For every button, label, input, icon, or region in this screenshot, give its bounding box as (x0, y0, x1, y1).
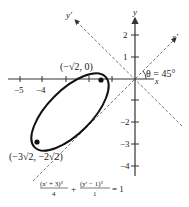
ellipse (19, 61, 121, 163)
ellipse-equation: (x′ + 3)² 4 + (y′ − 1)² 1 = 1 (40, 180, 124, 198)
y-tick-label-2: 2 (123, 30, 128, 40)
x-tick-label-m5: −5 (14, 85, 24, 95)
point-top-label: (−√2, 0) (60, 61, 93, 73)
svg-text:+: + (71, 184, 76, 194)
y-tick-label-m4: −4 (120, 161, 130, 171)
point-top (98, 77, 103, 82)
x-tick-label-m4: −4 (36, 85, 46, 95)
rotated-ellipse-diagram: y y′ x′ x 2 1 −2 −3 −4 −5 −4 (−√2, 0) (−… (0, 0, 189, 207)
y-tick-label-m3: −3 (120, 139, 130, 149)
svg-text:= 1: = 1 (112, 184, 124, 194)
svg-text:(x′ + 3)²: (x′ + 3)² (40, 180, 63, 188)
angle-label: θ = 45° (146, 68, 175, 79)
y-tick-label-1: 1 (123, 52, 128, 62)
point-bottom-label: (−3√2, −2√2) (9, 151, 63, 163)
y-axis-label: y (132, 7, 137, 17)
svg-text:4: 4 (52, 190, 56, 198)
svg-text:1: 1 (93, 190, 97, 198)
y-prime-label: y′ (65, 10, 73, 20)
point-bottom (34, 139, 39, 144)
x-prime-label: x′ (171, 32, 179, 42)
y-tick-label-m2: −2 (120, 117, 130, 127)
svg-text:(y′ − 1)²: (y′ − 1)² (80, 180, 103, 188)
